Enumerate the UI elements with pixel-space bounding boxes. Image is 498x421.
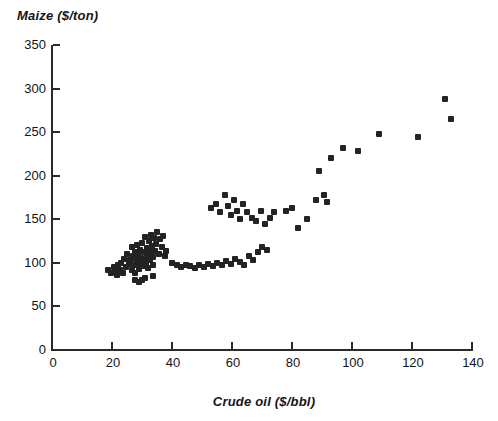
data-point [262,221,268,227]
data-point [271,209,277,215]
data-point [316,168,322,174]
x-tick-label: 140 [453,356,493,369]
data-point [267,215,273,221]
data-point [150,262,156,268]
data-point [228,212,234,218]
y-tick [53,305,60,307]
x-tick-label: 20 [93,356,133,369]
data-point [241,262,247,268]
data-point [142,275,148,281]
x-tick-label: 100 [333,356,373,369]
y-tick [53,349,60,351]
y-axis-title: Maize ($/ton) [17,8,98,23]
data-point [415,134,421,140]
x-tick [171,342,173,349]
data-point [234,208,240,214]
data-point [355,148,361,154]
y-tick [53,175,60,177]
data-point [217,209,223,215]
y-tick [53,218,60,220]
y-tick-label: 50 [6,299,46,312]
x-tick [411,342,413,349]
x-axis-title: Crude oil ($/bbl) [0,394,498,409]
data-point [448,116,454,122]
y-tick-label: 350 [6,38,46,51]
data-point [321,192,327,198]
data-point [156,251,162,257]
data-point [240,201,246,207]
data-point [162,253,168,259]
data-point [150,254,156,260]
data-point [225,203,231,209]
data-point [253,218,259,224]
x-tick [231,342,233,349]
y-tick [53,44,60,46]
x-tick-label: 80 [273,356,313,369]
data-point [264,247,270,253]
data-point [150,273,156,279]
x-tick-label: 60 [213,356,253,369]
data-point [376,131,382,137]
data-point [160,233,166,239]
y-tick-label: 0 [6,343,46,356]
y-tick-label: 300 [6,82,46,95]
y-tick-label: 250 [6,125,46,138]
data-point [324,199,330,205]
data-point [231,197,237,203]
data-point [114,272,120,278]
data-point [132,277,138,283]
x-tick [291,342,293,349]
data-point [289,205,295,211]
data-point [213,201,219,207]
data-point [304,216,310,222]
data-point [328,155,334,161]
data-point [222,192,228,198]
data-point [237,216,243,222]
y-tick-label: 150 [6,212,46,225]
scatter-chart-figure: Maize ($/ton) Crude oil ($/bbl) 05010015… [0,0,498,421]
y-tick [53,262,60,264]
data-point [340,145,346,151]
x-tick [111,342,113,349]
y-tick-label: 200 [6,169,46,182]
data-point [163,248,169,254]
data-point [295,225,301,231]
data-point [442,96,448,102]
x-tick [471,342,473,349]
data-point [313,197,319,203]
y-tick [53,88,60,90]
x-tick-label: 40 [153,356,193,369]
data-point [228,261,234,267]
x-tick-label: 0 [33,356,73,369]
data-point [258,208,264,214]
y-tick-label: 100 [6,256,46,269]
y-tick [53,131,60,133]
data-point [120,270,126,276]
data-point [250,257,256,263]
x-tick-label: 120 [393,356,433,369]
plot-area [52,45,472,350]
x-tick [51,342,53,349]
x-tick [351,342,353,349]
